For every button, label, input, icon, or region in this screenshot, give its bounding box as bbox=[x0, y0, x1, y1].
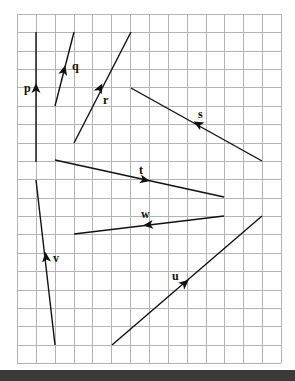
vector-label: u bbox=[172, 269, 179, 283]
vectors: pqrstuvw bbox=[24, 32, 262, 345]
vector-label: w bbox=[141, 207, 150, 221]
vector-label: v bbox=[53, 251, 59, 265]
vector-label: s bbox=[198, 107, 203, 121]
vector-label: r bbox=[103, 93, 109, 107]
grid-lines bbox=[17, 14, 282, 364]
vector-label: q bbox=[72, 59, 79, 73]
vector-label: t bbox=[139, 163, 143, 177]
vector-label: p bbox=[24, 81, 31, 95]
bottom-bar bbox=[0, 370, 295, 381]
vector-t: t bbox=[55, 160, 224, 197]
vector-grid-diagram: pqrstuvw bbox=[0, 0, 295, 381]
